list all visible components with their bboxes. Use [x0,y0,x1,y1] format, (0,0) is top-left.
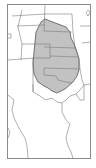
range-map [0,0,96,168]
range-map-svg [0,0,96,168]
